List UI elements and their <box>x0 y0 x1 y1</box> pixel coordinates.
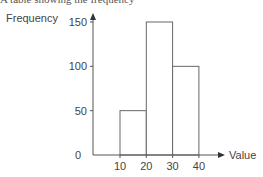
y-tick-label: 0 <box>75 149 81 161</box>
y-tick-label: 50 <box>75 105 87 117</box>
y-axis-arrow-icon <box>90 13 96 20</box>
x-tick-label: 10 <box>114 160 126 172</box>
bars-group <box>120 22 199 155</box>
x-tick-label: 20 <box>140 160 152 172</box>
y-tick-label: 150 <box>69 16 87 28</box>
histogram-bar <box>146 22 172 155</box>
x-axis-arrow-icon <box>218 152 225 158</box>
histogram-bar <box>120 111 146 155</box>
y-tick-label: 100 <box>69 60 87 72</box>
histogram-bar <box>173 66 199 155</box>
y-axis-label: Frequency <box>6 12 58 24</box>
x-ticks: 10203040 <box>114 155 205 172</box>
x-axis-label: Value <box>229 149 256 161</box>
x-tick-label: 30 <box>166 160 178 172</box>
y-ticks: 050100150 <box>69 16 93 161</box>
x-tick-label: 40 <box>193 160 205 172</box>
histogram-chart: 050100150 10203040 Frequency Value <box>0 0 263 177</box>
